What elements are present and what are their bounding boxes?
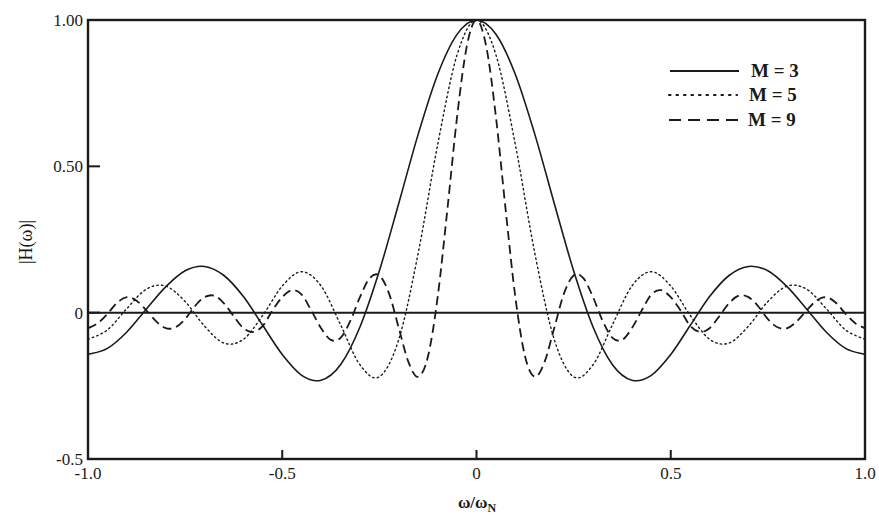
y-axis-ticks: 1.000.500-0.5 (53, 11, 100, 469)
legend-label: M = 3 (751, 60, 799, 81)
series-m9-line (88, 20, 865, 377)
plot-curves (88, 20, 865, 381)
legend-label: M = 5 (749, 84, 797, 105)
y-tick-label: -0.5 (56, 450, 83, 469)
legend-label: M = 9 (748, 109, 796, 130)
frequency-response-chart: -1.0-0.500.51.0 1.000.500-0.5 M = 3M = 5… (0, 0, 879, 521)
x-axis-title: ω/ωN (458, 493, 497, 515)
y-tick-label: 0.50 (53, 157, 83, 176)
x-tick-label: 1.0 (854, 464, 875, 483)
y-axis-title: |H(ω)| (16, 220, 37, 264)
series-m5-line (88, 20, 865, 378)
x-axis-title-subscript: N (487, 501, 496, 515)
x-tick-label: 0.5 (660, 464, 681, 483)
x-tick-label: 0 (472, 464, 481, 483)
y-tick-label: 1.00 (53, 11, 83, 30)
x-tick-label: -0.5 (269, 464, 296, 483)
x-axis-ticks: -1.0-0.500.51.0 (75, 450, 876, 483)
chart-container: -1.0-0.500.51.0 1.000.500-0.5 M = 3M = 5… (0, 0, 879, 521)
y-tick-label: 0 (75, 304, 84, 323)
x-axis-title-main: ω/ω (458, 493, 488, 512)
legend: M = 3M = 5M = 9 (669, 60, 799, 130)
